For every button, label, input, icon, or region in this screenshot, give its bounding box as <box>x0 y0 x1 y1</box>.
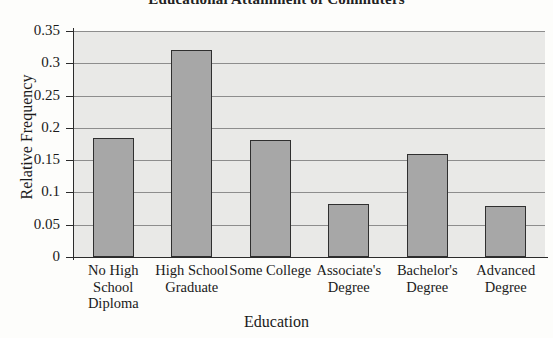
y-axis-tick <box>66 31 74 32</box>
category-label: High School Graduate <box>149 262 236 295</box>
gridline <box>74 192 545 193</box>
y-axis-tick <box>66 96 74 97</box>
y-axis-tick <box>66 160 74 161</box>
bar <box>328 204 369 257</box>
plot-area <box>74 31 545 257</box>
gridline <box>74 31 545 32</box>
x-axis-title: Education <box>0 313 553 331</box>
x-axis-line <box>66 257 548 258</box>
bar <box>250 140 291 257</box>
gridline <box>74 225 545 226</box>
y-axis-tick-label: 0.35 <box>0 23 60 38</box>
y-axis-tick-label: 0.15 <box>0 152 60 167</box>
y-axis-tick-label: 0.05 <box>0 217 60 232</box>
category-label: Advanced Degree <box>463 262 550 295</box>
bar <box>171 50 212 257</box>
bar-chart-figure: Educational Attainment of Commuters Rela… <box>0 0 553 338</box>
y-axis-tick-label: 0.25 <box>0 88 60 103</box>
y-axis-tick-label: 0.1 <box>0 184 60 199</box>
y-axis-tick-label: 0.2 <box>0 120 60 135</box>
y-axis-tick <box>66 225 74 226</box>
gridline <box>74 63 545 64</box>
gridline <box>74 128 545 129</box>
chart-title: Educational Attainment of Commuters <box>0 0 553 8</box>
gridline <box>74 96 545 97</box>
category-label: Associate's Degree <box>306 262 393 295</box>
bar <box>485 206 526 257</box>
y-axis-tick <box>66 257 74 258</box>
y-axis-tick <box>66 63 74 64</box>
y-axis-tick <box>66 128 74 129</box>
bar <box>407 154 448 257</box>
y-axis-tick-label: 0 <box>0 249 60 264</box>
gridline <box>74 160 545 161</box>
category-label: Some College <box>227 262 314 279</box>
y-axis-tick <box>66 192 74 193</box>
category-label: No High School Diploma <box>70 262 157 312</box>
y-axis-tick-label: 0.3 <box>0 55 60 70</box>
category-label: Bachelor's Degree <box>384 262 471 295</box>
bar <box>93 138 134 257</box>
